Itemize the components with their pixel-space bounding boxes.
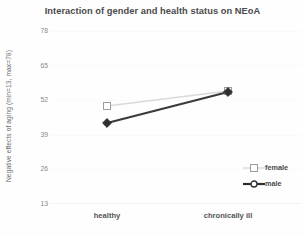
y-axis-label-container: Negative effects of aging (min=13, max=7… [0,26,16,206]
gridline-39 [50,135,302,136]
chart-legend: female male [243,161,303,193]
gridline-52 [50,100,302,101]
gridline-78 [50,31,302,32]
legend-marker-female-icon [243,161,265,175]
legend-label-female: female [265,163,288,172]
legend-marker-male-icon [243,177,265,191]
legend-item-male[interactable]: male [243,177,303,193]
gridline-13-baseline [50,203,302,204]
y-axis-ticks: 78 65 52 39 26 13 [18,26,48,208]
y-axis-label: Negative effects of aging (min=13, max=7… [5,50,12,182]
y-tick-13: 13 [26,200,48,207]
gridline-65 [50,65,302,66]
y-tick-65: 65 [26,62,48,69]
chart-container: Interaction of gender and health status … [0,0,305,236]
legend-item-female[interactable]: female [243,161,303,177]
y-tick-78: 78 [26,27,48,34]
x-tick-healthy: healthy [94,211,121,220]
x-tick-chronically-ill: chronically ill [204,211,253,220]
y-tick-52: 52 [26,96,48,103]
y-tick-39: 39 [26,131,48,138]
chart-title: Interaction of gender and health status … [0,6,305,16]
y-tick-26: 26 [26,165,48,172]
legend-label-male: male [265,179,282,188]
